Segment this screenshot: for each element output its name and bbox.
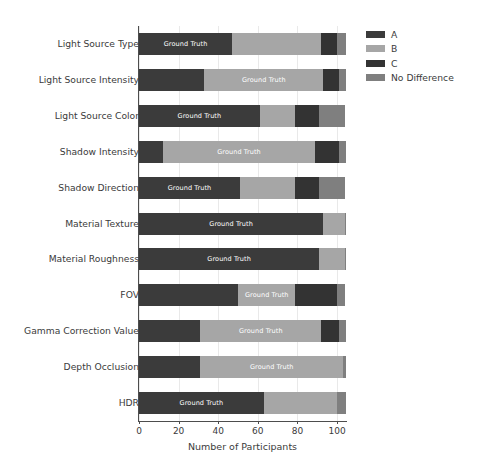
- x-tick-mark: [258, 421, 259, 424]
- legend-item: A: [366, 27, 476, 42]
- y-axis-tick-labels: Light Source TypeLight Source IntensityL…: [0, 26, 479, 421]
- x-axis-title: Number of Participants: [139, 441, 346, 452]
- x-tick-label: 60: [252, 426, 263, 436]
- x-tick-mark: [139, 421, 140, 424]
- x-tick-label: 40: [213, 426, 224, 436]
- x-tick-mark: [337, 421, 338, 424]
- chart-legend: ABCNo Difference: [366, 27, 476, 85]
- y-tick-label: Material Texture: [65, 219, 139, 228]
- y-tick-label: Depth Occlusion: [64, 362, 139, 371]
- legend-label: A: [391, 30, 397, 39]
- y-tick-label: FOV: [120, 290, 139, 299]
- x-tick-label: 80: [292, 426, 303, 436]
- y-tick-label: Material Roughness: [49, 254, 139, 263]
- x-tick-mark: [179, 421, 180, 424]
- x-tick-mark: [297, 421, 298, 424]
- y-tick-label: Shadow Direction: [58, 183, 139, 192]
- y-tick-label: Shadow Intensity: [60, 147, 139, 156]
- y-tick-label: Light Source Intensity: [39, 75, 139, 84]
- y-tick-label: Light Source Type: [58, 39, 139, 48]
- x-tick-label: 0: [136, 426, 142, 436]
- legend-label: C: [391, 59, 397, 68]
- legend-label: B: [391, 44, 397, 53]
- legend-swatch-icon: [366, 74, 385, 81]
- x-tick-label: 100: [328, 426, 345, 436]
- legend-label: No Difference: [391, 73, 454, 82]
- y-tick-label: Light Source Color: [55, 111, 139, 120]
- y-tick-label: Gamma Correction Value: [24, 326, 139, 335]
- legend-item: B: [366, 42, 476, 57]
- x-tick-label: 20: [173, 426, 184, 436]
- stacked-bar-chart: Ground TruthGround TruthGround TruthGrou…: [0, 0, 479, 472]
- y-tick-label: HDR: [119, 398, 139, 407]
- x-tick-mark: [218, 421, 219, 424]
- legend-swatch-icon: [366, 60, 385, 67]
- legend-swatch-icon: [366, 31, 385, 38]
- legend-item: No Difference: [366, 71, 476, 86]
- legend-swatch-icon: [366, 45, 385, 52]
- x-axis-spine: [138, 421, 347, 422]
- legend-item: C: [366, 56, 476, 71]
